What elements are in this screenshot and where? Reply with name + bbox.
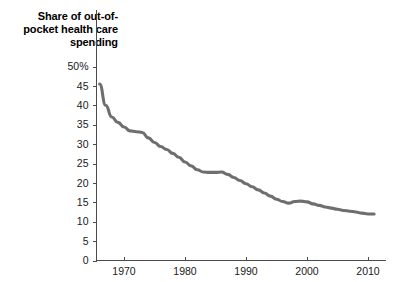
y-tick-label: 50% [67, 60, 88, 72]
x-tick-label: 1980 [173, 265, 197, 277]
x-axis-tick-labels: 19701980199020002010 [112, 265, 380, 277]
y-tick-label: 5 [83, 235, 89, 247]
x-tick-label: 2000 [295, 265, 319, 277]
y-tick-label: 20 [77, 177, 89, 189]
y-tick-label: 40 [77, 99, 89, 111]
y-tick-label: 0 [83, 254, 89, 266]
y-tick-label: 15 [77, 196, 89, 208]
x-tick-label: 1990 [234, 265, 258, 277]
y-tick-label: 35 [77, 118, 89, 130]
y-tick-label: 10 [77, 215, 89, 227]
data-line-out-of-pocket-share [100, 84, 375, 214]
x-axis-tick-marks [125, 257, 369, 261]
x-tick-label: 1970 [112, 265, 136, 277]
y-axis-tick-labels: 05101520253035404550% [67, 60, 88, 266]
x-tick-label: 2010 [356, 265, 380, 277]
y-tick-label: 30 [77, 138, 89, 150]
chart-container: Share of out-of-pocket health care spend… [0, 0, 396, 282]
y-axis-tick-marks [93, 68, 97, 262]
y-tick-label: 25 [77, 157, 89, 169]
y-tick-label: 45 [77, 80, 89, 92]
chart-svg: 05101520253035404550% 197019801990200020… [0, 0, 396, 282]
